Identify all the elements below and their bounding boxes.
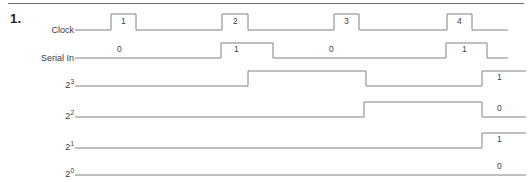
- value-label-clock: 1: [121, 16, 126, 26]
- value-label-clock: 4: [457, 16, 462, 26]
- value-label-serial-in: 1: [234, 44, 239, 54]
- waveform-bit-2-3: [75, 71, 526, 86]
- waveform-canvas: [0, 0, 532, 182]
- timing-diagram-page: 1. Clock Serial In 23 22 21 20 123401011…: [0, 0, 532, 182]
- waveform-clock: [75, 14, 508, 30]
- value-label-bit-2-0: 0: [497, 161, 502, 171]
- value-label-serial-in: 1: [462, 44, 467, 54]
- waveform-bit-2-1: [75, 133, 526, 148]
- value-label-bit-2-1: 1: [497, 134, 502, 144]
- value-label-clock: 2: [233, 16, 238, 26]
- value-label-clock: 3: [344, 16, 349, 26]
- value-label-bit-2-2: 0: [497, 103, 502, 113]
- value-label-serial-in: 0: [117, 44, 122, 54]
- waveform-serial-in: [75, 43, 508, 58]
- value-label-bit-2-3: 1: [497, 72, 502, 82]
- waveform-bit-2-2: [75, 102, 526, 117]
- value-label-serial-in: 0: [329, 44, 334, 54]
